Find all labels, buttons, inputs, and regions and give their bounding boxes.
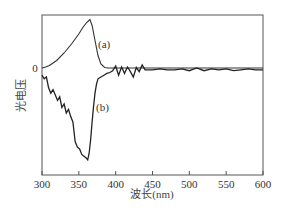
- x-tick-label: 550: [218, 178, 235, 190]
- series-b-label: (b): [96, 101, 109, 114]
- x-tick-label: 400: [107, 178, 124, 190]
- x-tick-label: 350: [71, 178, 88, 190]
- x-tick-label: 500: [181, 178, 198, 190]
- photovoltage-spectrum-chart: 300350400450500550600 0 光电压 波长(nm) (a) (…: [0, 0, 285, 213]
- y-zero-label: 0: [32, 62, 38, 74]
- y-axis-title: 光电压: [14, 79, 27, 112]
- x-tick-label: 600: [255, 178, 272, 190]
- x-axis-ticks: [42, 171, 263, 175]
- series-a-label: (a): [98, 38, 111, 51]
- series-b-line: [42, 65, 263, 160]
- x-axis-title: 波长(nm): [130, 188, 174, 201]
- x-tick-label: 300: [34, 178, 51, 190]
- series-a-line: [42, 20, 263, 69]
